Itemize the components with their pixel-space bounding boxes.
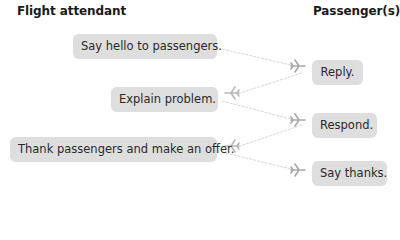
airplane-icon <box>290 59 306 73</box>
airplane-icon <box>290 113 306 127</box>
passenger-step-reply: Reply. <box>312 60 363 85</box>
attendant-step-thank-offer: Thank passengers and make an offer. <box>10 137 217 162</box>
airplane-icon <box>290 163 306 177</box>
attendant-step-say-hello: Say hello to passengers. <box>73 34 217 59</box>
passenger-step-respond: Respond. <box>312 113 377 138</box>
airplane-icon <box>224 86 240 100</box>
attendant-step-explain-problem: Explain problem. <box>111 87 218 112</box>
passenger-step-say-thanks: Say thanks. <box>312 161 387 186</box>
